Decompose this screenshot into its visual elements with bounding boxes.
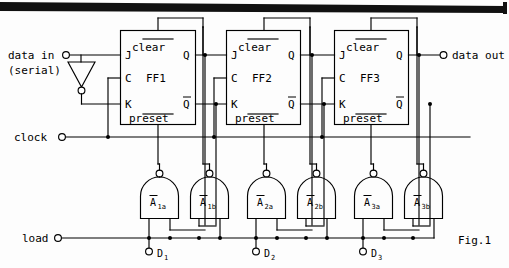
gate-label-a1a: A 1a bbox=[150, 196, 166, 212]
gate-a2b-sub: 2b bbox=[315, 203, 323, 211]
ff2-to-ff3-links bbox=[301, 55, 335, 104]
ff1-qbar-label: Q bbox=[183, 98, 190, 111]
gate-label-a2a: A 2a bbox=[257, 196, 273, 212]
d2-terminal[interactable] bbox=[253, 248, 260, 255]
gate-a1a-base: A bbox=[150, 197, 156, 208]
d1-terminal[interactable] bbox=[146, 248, 153, 255]
ff2-q-label: Q bbox=[288, 49, 295, 62]
ff1-to-ff2-links bbox=[196, 55, 227, 104]
ff2-top-routing bbox=[264, 18, 310, 164]
ff1-q-label: Q bbox=[183, 49, 190, 62]
gate-a3b-sub: 3b bbox=[422, 203, 430, 211]
d2-sub: 2 bbox=[271, 254, 275, 262]
ff3-j-label: J bbox=[339, 49, 346, 62]
ff2-k-label: K bbox=[231, 98, 238, 111]
scan-artifact-bar bbox=[0, 2, 507, 14]
gate-a3a-base: A bbox=[364, 197, 370, 208]
d3-base: D bbox=[371, 248, 377, 259]
load-label: load bbox=[22, 232, 49, 245]
ff1-labels: clear J C K FF1 Q Q preset bbox=[125, 41, 191, 125]
ff2-j-label: J bbox=[231, 49, 238, 62]
ff3-clear-label: clear bbox=[346, 41, 379, 54]
ff3-top-routing bbox=[371, 18, 417, 164]
ff3-preset-label: preset bbox=[343, 112, 383, 125]
data-out-terminal[interactable] bbox=[440, 52, 447, 59]
ff1-name-label: FF1 bbox=[146, 72, 166, 85]
ff2-qbar-label: Q bbox=[288, 98, 295, 111]
d2-base: D bbox=[264, 248, 270, 259]
gate-a3a-sub: 3a bbox=[372, 203, 380, 211]
gate-label-a3a: A 3a bbox=[364, 196, 380, 212]
d-input-labels: D 1 D 2 D 3 bbox=[157, 248, 382, 262]
ff3-qbar-label: Q bbox=[396, 98, 403, 111]
gate-a2b-base: A bbox=[307, 197, 313, 208]
ff1-top-routing bbox=[158, 18, 203, 164]
data-out-label: data out bbox=[452, 49, 505, 62]
ff1-clear-label: clear bbox=[132, 41, 165, 54]
ff3-name-label: FF3 bbox=[360, 72, 380, 85]
gate-a1b-base: A bbox=[200, 197, 206, 208]
circuit-diagram: data in (serial) clock load data out cle… bbox=[0, 0, 509, 268]
clock-label: clock bbox=[14, 131, 47, 144]
data-in-label-line1: data in bbox=[8, 49, 54, 62]
ff2-clear-label: clear bbox=[238, 41, 271, 54]
gate-label-a3b: A 3b bbox=[414, 196, 430, 212]
gate-a1a-sub: 1a bbox=[158, 203, 166, 211]
d3-sub: 3 bbox=[378, 254, 382, 262]
ff3-labels: clear J C K FF3 Q Q preset bbox=[339, 41, 404, 125]
ff2-c-label: C bbox=[231, 72, 238, 85]
data-in-label-line2: (serial) bbox=[8, 64, 61, 77]
ff2-name-label: FF2 bbox=[252, 72, 272, 85]
ff1-preset-label: preset bbox=[129, 112, 169, 125]
gate-label-a2b: A 2b bbox=[307, 196, 323, 212]
gate-a2a-base: A bbox=[257, 197, 263, 208]
d3-terminal[interactable] bbox=[360, 248, 367, 255]
gate-a2a-sub: 2a bbox=[265, 203, 273, 211]
gate-label-a1b: A 1b bbox=[200, 196, 216, 212]
ff2-labels: clear J C K FF2 Q Q preset bbox=[231, 41, 296, 125]
gate-a3b-base: A bbox=[414, 197, 420, 208]
ff2-preset-label: preset bbox=[235, 112, 275, 125]
ff3-k-label: K bbox=[339, 98, 346, 111]
ff1-k-label: K bbox=[125, 98, 132, 111]
d-input-drops bbox=[149, 238, 363, 248]
d1-base: D bbox=[157, 248, 163, 259]
gate-labels: A 1a A 1b A 2a A 2b A 3a A 3b bbox=[150, 196, 430, 212]
gate-a1b-sub: 1b bbox=[208, 203, 216, 211]
d1-sub: 1 bbox=[164, 254, 168, 262]
load-terminal[interactable] bbox=[55, 235, 62, 242]
ff1-j-label: J bbox=[125, 49, 132, 62]
data-in-terminal[interactable] bbox=[63, 52, 70, 59]
data-in-net bbox=[68, 55, 121, 104]
ff3-q-label: Q bbox=[396, 49, 403, 62]
figure-canvas: data in (serial) clock load data out cle… bbox=[0, 0, 509, 268]
ff1-c-label: C bbox=[125, 72, 132, 85]
figure-caption: Fig.1 bbox=[458, 234, 491, 247]
clock-terminal[interactable] bbox=[59, 134, 66, 141]
ff3-c-label: C bbox=[339, 72, 346, 85]
